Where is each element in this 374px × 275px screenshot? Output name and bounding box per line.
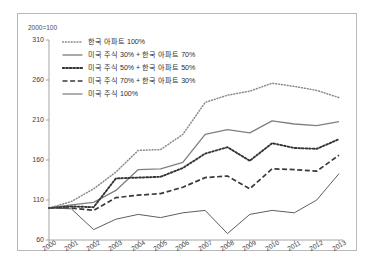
y-tick-label: 210 <box>19 116 44 123</box>
legend-label: 한국 아파트 100% <box>88 37 145 47</box>
legend-line-swatch <box>62 63 83 73</box>
series-line-2 <box>49 121 339 208</box>
legend-line-swatch <box>62 50 83 60</box>
legend-line-swatch <box>62 76 83 86</box>
legend-item[interactable]: 미국 주식 30% + 한국 아파트 70% <box>62 48 195 61</box>
legend-label: 미국 주식 50% + 한국 아파트 50% <box>88 63 195 73</box>
series-line-3 <box>49 139 339 208</box>
chart-legend: 한국 아파트 100%미국 주식 30% + 한국 아파트 70%미국 주식 5… <box>62 35 195 101</box>
series-group <box>49 83 339 233</box>
series-line-5 <box>49 174 339 234</box>
legend-label: 미국 주식 70% + 한국 아파트 30% <box>88 76 195 86</box>
y-tick-label: 310 <box>19 36 44 43</box>
chart-figure: 2000=100 60110160210260310 2000200120022… <box>0 0 374 275</box>
legend-item[interactable]: 한국 아파트 100% <box>62 35 195 48</box>
legend-item[interactable]: 미국 주식 50% + 한국 아파트 50% <box>62 61 195 74</box>
y-tick-label: 110 <box>19 196 44 203</box>
legend-label: 미국 주식 30% + 한국 아파트 70% <box>88 50 195 60</box>
y-tick-label: 160 <box>19 156 44 163</box>
legend-item[interactable]: 미국 주식 70% + 한국 아파트 30% <box>62 75 195 88</box>
legend-item[interactable]: 미국 주식 100% <box>62 88 195 101</box>
series-line-1 <box>49 83 339 208</box>
legend-label: 미국 주식 100% <box>88 89 138 99</box>
y-tick-label: 60 <box>19 236 44 243</box>
y-tick-label: 260 <box>19 76 44 83</box>
legend-line-swatch <box>62 89 83 99</box>
legend-line-swatch <box>62 37 83 47</box>
